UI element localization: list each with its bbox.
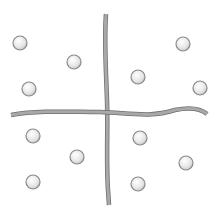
circle-bottom-left (26, 175, 40, 189)
circle-bottom-right (179, 156, 193, 170)
circle-top-left (22, 82, 36, 96)
circle-bottom-left (70, 150, 84, 164)
circle-bottom-left (26, 129, 40, 143)
quadrant-diagram (0, 0, 209, 211)
circle-top-left (67, 55, 81, 69)
circle-bottom-right (133, 131, 147, 145)
circle-top-left (13, 36, 27, 50)
circle-top-right (176, 37, 190, 51)
circle-bottom-right (131, 177, 145, 191)
circle-top-right (193, 81, 207, 95)
circle-top-right (131, 70, 145, 84)
